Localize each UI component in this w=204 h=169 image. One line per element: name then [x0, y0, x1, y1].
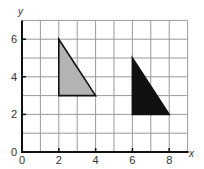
grid-lines — [22, 20, 188, 152]
x-tick-label: 4 — [93, 154, 99, 166]
y-axis-label: y — [17, 6, 24, 17]
coordinate-grid: 024680246 x y — [0, 0, 204, 169]
y-tick-label: 0 — [11, 146, 17, 158]
x-tick-label: 0 — [19, 154, 25, 166]
x-tick-label: 8 — [166, 154, 172, 166]
y-tick-label: 4 — [11, 71, 17, 83]
x-tick-label: 6 — [129, 154, 135, 166]
y-tick-label: 6 — [11, 33, 17, 45]
y-tick-label: 2 — [11, 108, 17, 120]
x-tick-label: 2 — [56, 154, 62, 166]
x-axis-label: x — [188, 148, 195, 159]
